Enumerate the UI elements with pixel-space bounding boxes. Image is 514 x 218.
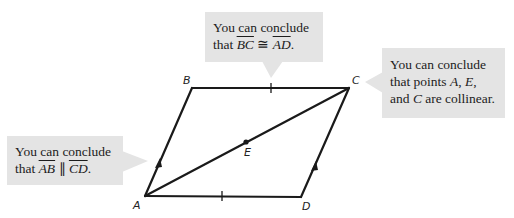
segment-bc-notation: BC	[237, 37, 254, 52]
parallelogram-diagram: A B C D E You can conclude that BC ≅ AD.…	[0, 0, 514, 218]
callout-line: You can conclude	[213, 19, 315, 36]
point-a-ref: A	[450, 74, 458, 89]
vertex-label-b: B	[183, 74, 191, 87]
text: that points	[390, 74, 450, 89]
vertex-label-d: D	[302, 200, 310, 213]
segment-ab	[145, 88, 192, 196]
congruent-symbol: ≅	[254, 37, 273, 52]
segment-ad-notation: AD	[273, 37, 291, 52]
vertex-label-a: A	[133, 199, 141, 212]
point-label-e: E	[244, 146, 251, 159]
left-callout-pointer	[122, 151, 148, 172]
callout-line: You can conclude	[390, 56, 497, 73]
right-callout-pointer	[365, 72, 383, 93]
segment-ab-notation: AB	[39, 161, 56, 176]
text: that	[15, 161, 39, 176]
text: and	[390, 91, 413, 106]
text: that	[213, 37, 237, 52]
parallel-symbol: ∥	[55, 161, 69, 176]
callout-line: that AB ∥ CD.	[15, 160, 115, 177]
callout-congruent-sides: You can conclude that BC ≅ AD.	[205, 12, 323, 62]
point-e-ref: E	[465, 74, 473, 89]
callout-collinear-points: You can conclude that points A, E, and C…	[382, 48, 505, 118]
text: ,	[458, 74, 465, 89]
callout-line: that points A, E,	[390, 73, 497, 90]
segment-cd-notation: CD	[69, 161, 88, 176]
point-c-ref: C	[413, 91, 422, 106]
text: are collinear.	[422, 91, 495, 106]
callout-line: You can conclude	[15, 143, 115, 160]
callout-line: that BC ≅ AD.	[213, 36, 315, 53]
point-e-dot	[243, 139, 248, 144]
text: .	[88, 161, 91, 176]
callout-line: and C are collinear.	[390, 90, 497, 107]
callout-parallel-sides: You can conclude that AB ∥ CD.	[7, 136, 123, 185]
segment-cd	[301, 88, 349, 197]
vertex-label-c: C	[352, 74, 360, 87]
top-callout-pointer	[262, 61, 283, 78]
text: .	[291, 37, 294, 52]
segment-da	[145, 196, 301, 197]
text: ,	[473, 74, 476, 89]
